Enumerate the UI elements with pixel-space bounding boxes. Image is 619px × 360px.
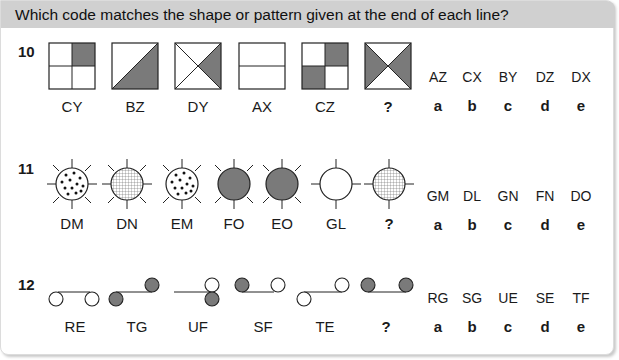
figure-q10-5 [301, 42, 349, 90]
figure-label: BZ [105, 98, 165, 115]
option-d[interactable]: d [525, 97, 565, 114]
figure-q11-1 [46, 158, 98, 210]
figure-q12-1 [44, 275, 106, 315]
figure-q12-2 [106, 275, 168, 315]
figure-q11-6 [310, 158, 362, 210]
figure-q11-4 [208, 158, 260, 210]
option-b[interactable]: b [452, 216, 492, 233]
figure-label-unknown: ? [358, 98, 418, 115]
figure-label: GL [306, 215, 366, 232]
figure-label: TE [295, 318, 355, 335]
option-code: CX [452, 69, 492, 85]
option-b[interactable]: b [452, 97, 492, 114]
figure-q10-unknown [364, 42, 412, 90]
question-number-11: 11 [18, 160, 34, 177]
figure-label: SF [233, 318, 293, 335]
option-code: DX [561, 69, 601, 85]
option-code: FN [525, 188, 565, 204]
figure-label: CY [42, 98, 102, 115]
figure-q12-3 [172, 275, 222, 315]
option-code: DZ [525, 69, 565, 85]
figure-q10-2 [111, 42, 159, 90]
figure-q10-3 [174, 42, 222, 90]
figure-label-unknown: ? [356, 318, 416, 335]
option-c[interactable]: c [488, 97, 528, 114]
figure-label: DY [168, 98, 228, 115]
figure-label: DN [97, 215, 157, 232]
instruction-text: Which code matches the shape or pattern … [15, 6, 509, 24]
option-e[interactable]: e [561, 318, 601, 335]
instruction-header: Which code matches the shape or pattern … [1, 1, 615, 28]
figure-label: TG [107, 318, 167, 335]
option-e[interactable]: e [561, 216, 601, 233]
option-code: DL [452, 188, 492, 204]
figure-q12-4 [228, 275, 290, 315]
option-code: SG [452, 290, 492, 306]
option-code: BY [488, 69, 528, 85]
question-number-10: 10 [18, 43, 35, 60]
figure-q12-5 [292, 275, 354, 315]
figure-label: UF [168, 318, 228, 335]
option-b[interactable]: b [452, 318, 492, 335]
option-code: DO [561, 188, 601, 204]
figure-q12-unknown [356, 275, 418, 315]
figure-label: DM [42, 215, 102, 232]
figure-label: EM [152, 215, 212, 232]
option-d[interactable]: d [525, 216, 565, 233]
option-code: SE [525, 290, 565, 306]
figure-label-unknown: ? [359, 215, 419, 232]
figure-q11-unknown [363, 158, 415, 210]
figure-label: EO [252, 215, 312, 232]
question-number-12: 12 [18, 276, 35, 293]
option-code: UE [488, 290, 528, 306]
option-d[interactable]: d [525, 318, 565, 335]
figure-label: RE [45, 318, 105, 335]
figure-q11-5 [256, 158, 308, 210]
option-code: TF [561, 290, 601, 306]
option-c[interactable]: c [488, 216, 528, 233]
figure-q11-2 [101, 158, 153, 210]
figure-label: AX [232, 98, 292, 115]
figure-q11-3 [156, 158, 208, 210]
option-c[interactable]: c [488, 318, 528, 335]
option-code: GN [488, 188, 528, 204]
figure-label: CZ [295, 98, 355, 115]
figure-q10-1 [48, 42, 96, 90]
figure-q10-4 [238, 42, 286, 90]
option-e[interactable]: e [561, 97, 601, 114]
